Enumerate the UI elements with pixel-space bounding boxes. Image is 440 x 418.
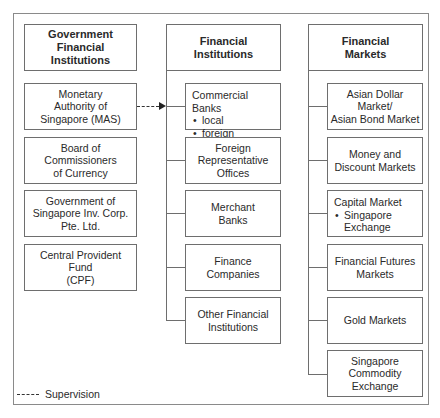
node-gold-markets: Gold Markets (327, 297, 423, 344)
node-line: Fund (69, 261, 93, 274)
node-line: Singapore (351, 355, 399, 368)
bullet-item: local (192, 114, 234, 127)
node-line: Companies (206, 268, 259, 281)
bullet-item: Singapore Exchange (334, 209, 392, 234)
bullet-list: Singapore Exchange (334, 209, 392, 234)
node-line: Authority of (54, 100, 107, 113)
node-line: Board of (61, 142, 101, 155)
node-line: Asian Dollar Market/ (328, 88, 422, 113)
connector (308, 106, 327, 107)
connector (166, 160, 185, 161)
node-line: Exchange (352, 380, 399, 393)
node-line: Government of (46, 195, 115, 208)
connector (166, 320, 185, 321)
connector (166, 106, 185, 107)
node-gic: Government of Singapore Inv. Corp. Pte. … (24, 190, 137, 237)
header-line: Institutions (194, 48, 253, 61)
node-heading: Capital Market (334, 196, 402, 209)
node-asian-dollar-bond-market: Asian Dollar Market/ Asian Bond Market (327, 83, 423, 130)
header-line: Financial (200, 35, 248, 48)
node-line: Other Financial (197, 308, 268, 321)
arrowhead-icon (159, 102, 166, 110)
node-line: Pte. Ltd. (61, 220, 100, 233)
node-cpf: Central Provident Fund (CPF) (24, 244, 137, 291)
connector (308, 160, 327, 161)
connector (308, 374, 327, 375)
header-financial-institutions: Financial Institutions (166, 24, 281, 71)
header-line: Financial (57, 41, 105, 54)
dashed-line-icon (17, 394, 39, 395)
supervision-edge (137, 106, 159, 107)
node-line: Central Provident (40, 249, 121, 262)
node-commercial-banks: Commercial Banks local foreign (185, 83, 281, 130)
connector (308, 320, 327, 321)
node-line: Representative (198, 154, 269, 167)
header-financial-markets: Financial Markets (308, 24, 423, 71)
connector-trunk-institutions (166, 70, 167, 321)
node-line: Gold Markets (344, 314, 406, 327)
node-mas: Monetary Authority of Singapore (MAS) (24, 83, 137, 130)
connector (166, 213, 185, 214)
node-line: Financial Futures (335, 255, 416, 268)
node-line: Foreign (215, 142, 251, 155)
node-line: Discount Markets (334, 161, 415, 174)
node-board-of-commissioners: Board of Commissioners of Currency (24, 137, 137, 184)
node-line: of Currency (53, 167, 107, 180)
node-foreign-representative-offices: Foreign Representative Offices (185, 137, 281, 184)
connector (166, 267, 185, 268)
node-merchant-banks: Merchant Banks (185, 190, 281, 237)
bullet-line: Exchange (344, 221, 392, 234)
node-money-discount-markets: Money and Discount Markets (327, 137, 423, 184)
bullet-line: Singapore (344, 209, 392, 222)
header-line: Financial (342, 35, 390, 48)
node-singapore-commodity-exchange: Singapore Commodity Exchange (327, 350, 423, 397)
node-capital-market: Capital Market Singapore Exchange (327, 190, 423, 237)
node-line: Singapore (MAS) (40, 113, 121, 126)
node-line: Finance (214, 255, 251, 268)
bullet-list: local foreign (192, 114, 234, 139)
node-line: Markets (356, 268, 393, 281)
node-heading: Commercial Banks (192, 89, 274, 114)
header-line: Institutions (51, 54, 110, 67)
header-line: Government (48, 28, 113, 41)
legend: Supervision (17, 388, 100, 400)
node-line: Institutions (208, 321, 258, 334)
node-line: Offices (217, 167, 249, 180)
node-line: Monetary (59, 88, 103, 101)
node-finance-companies: Finance Companies (185, 244, 281, 291)
connector (308, 213, 327, 214)
node-line: Merchant (211, 201, 255, 214)
node-line: Asian Bond Market (331, 113, 420, 126)
legend-label: Supervision (45, 388, 100, 400)
node-line: Commodity (348, 367, 401, 380)
node-line: (CPF) (67, 274, 95, 287)
connector (308, 267, 327, 268)
header-government-financial-institutions: Government Financial Institutions (24, 24, 137, 71)
node-line: Money and (349, 148, 401, 161)
node-financial-futures-markets: Financial Futures Markets (327, 244, 423, 291)
node-other-financial-institutions: Other Financial Institutions (185, 297, 281, 344)
node-line: Commissioners (44, 154, 116, 167)
node-line: Banks (218, 214, 247, 227)
header-line: Markets (345, 48, 387, 61)
connector-trunk-markets (308, 70, 309, 375)
node-line: Singapore Inv. Corp. (33, 207, 129, 220)
